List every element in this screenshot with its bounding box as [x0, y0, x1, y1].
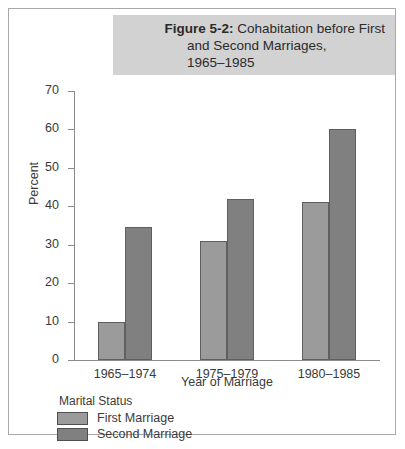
bar	[302, 202, 329, 360]
figure-number-label: Figure 5-2:	[164, 21, 233, 36]
title-line-2: and Second Marriages,	[119, 37, 385, 54]
legend-entry: Second Marriage	[57, 427, 192, 441]
plot-area: 010203040506070 1965–19741975–19791980–1…	[74, 91, 380, 361]
chart-legend: Marital Status First MarriageSecond Marr…	[57, 394, 192, 443]
y-axis-tick-label: 0	[52, 352, 59, 366]
bar	[125, 227, 152, 360]
legend-label: Second Marriage	[97, 427, 192, 441]
y-axis-tick-label: 70	[45, 83, 59, 97]
bar-group	[200, 91, 254, 360]
y-axis-title: Percent	[27, 162, 41, 205]
legend-entries: First MarriageSecond Marriage	[57, 411, 192, 441]
y-axis-tick-label: 30	[45, 237, 59, 251]
y-axis-tick: 70	[68, 91, 74, 92]
x-axis-title: Year of Marriage	[74, 375, 380, 389]
y-axis-tick-label: 60	[45, 121, 59, 135]
legend-title: Marital Status	[57, 394, 192, 408]
bar-group	[302, 91, 356, 360]
figure-title: Figure 5-2: Cohabitation before First an…	[113, 15, 395, 75]
title-line-1: Figure 5-2: Cohabitation before First	[119, 20, 385, 37]
legend-label: First Marriage	[97, 411, 174, 425]
y-axis-tick-label: 50	[45, 160, 59, 174]
bar	[329, 129, 356, 360]
figure-frame: Figure 5-2: Cohabitation before First an…	[8, 8, 396, 435]
y-axis-tick: 40	[68, 206, 74, 207]
bar	[200, 241, 227, 360]
bar-group	[98, 91, 152, 360]
legend-swatch	[57, 428, 88, 441]
y-axis-tick: 50	[68, 168, 74, 169]
y-axis-tick-label: 20	[45, 275, 59, 289]
title-line-3: 1965–1985	[119, 54, 385, 71]
y-axis-tick: 10	[68, 322, 74, 323]
y-axis-tick: 30	[68, 245, 74, 246]
y-axis-tick: 20	[68, 283, 74, 284]
bar	[227, 199, 254, 360]
title-text-part-1: Cohabitation before First	[237, 21, 385, 36]
y-axis-line	[74, 91, 75, 361]
y-axis-tick: 0	[68, 360, 74, 361]
y-axis-tick-label: 10	[45, 314, 59, 328]
x-axis-line	[74, 360, 380, 361]
y-axis-tick: 60	[68, 129, 74, 130]
y-axis-tick-label: 40	[45, 198, 59, 212]
legend-swatch	[57, 412, 88, 425]
legend-entry: First Marriage	[57, 411, 192, 425]
bar	[98, 322, 125, 360]
